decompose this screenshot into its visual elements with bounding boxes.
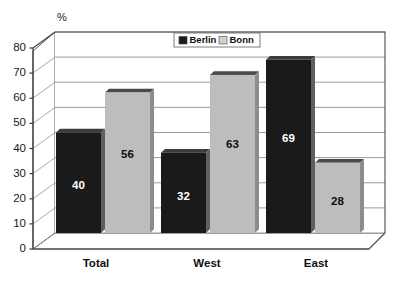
x-tick-label-total: Total [83, 257, 110, 269]
chart-legend[interactable]: Berlin Bonn [174, 33, 260, 47]
bar-side-face [255, 71, 259, 233]
bar-value-label: 63 [226, 138, 239, 150]
bar-west-bonn[interactable]: 63 [210, 71, 259, 233]
y-tick-label: 40 [13, 142, 26, 154]
bar-top-face [210, 71, 259, 75]
bar-value-label: 40 [72, 179, 85, 191]
bar-chart-figure: 0 10 20 30 40 50 60 70 80 % 40 [0, 0, 404, 285]
bar-value-label: 28 [331, 195, 344, 207]
y-tick-label: 70 [13, 66, 26, 78]
bar-top-face [161, 149, 210, 153]
y-axis-unit-label: % [57, 11, 67, 23]
x-tick-label-west: West [193, 257, 220, 269]
legend-label-berlin: Berlin [190, 34, 217, 45]
y-tick-label: 10 [13, 217, 26, 229]
bar-front-face [210, 75, 255, 233]
bar-east-bonn[interactable]: 28 [315, 159, 364, 233]
bar-west-berlin[interactable]: 32 [161, 149, 210, 233]
bar-side-face [206, 149, 210, 233]
legend-swatch-bonn-icon [219, 37, 227, 45]
y-axis-tick-labels: 0 10 20 30 40 50 60 70 80 [13, 41, 26, 254]
bar-value-label: 56 [121, 148, 134, 160]
bar-total-berlin[interactable]: 40 [56, 129, 105, 233]
y-tick-label: 0 [20, 242, 26, 254]
y-tick-label: 80 [13, 41, 26, 53]
bar-side-face [101, 129, 105, 233]
bar-top-face [315, 159, 364, 163]
legend-swatch-berlin-icon [179, 37, 187, 45]
bar-value-label: 69 [282, 132, 295, 144]
bar-side-face [360, 159, 364, 233]
bar-front-face [266, 60, 311, 233]
x-tick-label-east: East [304, 257, 328, 269]
bar-value-label: 32 [177, 190, 190, 202]
chart-canvas: 0 10 20 30 40 50 60 70 80 % 40 [0, 0, 404, 285]
bar-top-face [105, 89, 154, 93]
y-tick-label: 30 [13, 167, 26, 179]
bar-top-face [266, 56, 315, 60]
y-tick-label: 50 [13, 116, 26, 128]
legend-label-bonn: Bonn [230, 34, 254, 45]
bar-east-berlin[interactable]: 69 [266, 56, 315, 233]
bar-side-face [150, 89, 154, 233]
bar-top-face [56, 129, 105, 133]
bar-side-face [311, 56, 315, 233]
y-tick-label: 60 [13, 91, 26, 103]
bar-total-bonn[interactable]: 56 [105, 89, 154, 233]
y-tick-label: 20 [13, 192, 26, 204]
plot-floor [33, 233, 385, 249]
bar-front-face [105, 92, 150, 233]
